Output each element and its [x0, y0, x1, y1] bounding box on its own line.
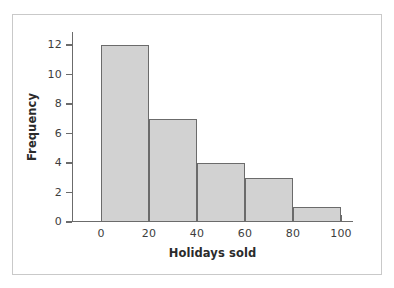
- x-axis-tick: [293, 215, 294, 222]
- x-axis-tick: [149, 215, 150, 222]
- x-axis-tick: [341, 215, 342, 222]
- histogram-bar: [101, 45, 149, 222]
- x-axis-tick: [245, 215, 246, 222]
- histogram-bar: [197, 163, 245, 222]
- x-axis-tick-label: 100: [321, 227, 361, 240]
- x-axis-tick-label: 20: [129, 227, 169, 240]
- y-axis-title: Frequency: [25, 67, 39, 187]
- x-axis-tick-label: 80: [273, 227, 313, 240]
- histogram-bar: [245, 178, 293, 222]
- histogram-plot-area: 0 2 4 6 8 10 12 0 20 40 60 80 100: [0, 0, 394, 288]
- x-axis-title: Holidays sold: [72, 246, 353, 260]
- y-axis-line: [72, 32, 73, 222]
- page-root: 0 2 4 6 8 10 12 0 20 40 60 80 100: [0, 0, 394, 288]
- y-axis-tick: [66, 133, 72, 134]
- x-axis-line: [72, 221, 353, 222]
- x-axis-tick: [101, 215, 102, 222]
- histogram-bar: [149, 119, 197, 222]
- y-axis-tick: [66, 221, 72, 222]
- x-axis-tick-label: 0: [81, 227, 121, 240]
- y-axis-tick-label: 0: [28, 215, 62, 228]
- y-axis-tick-label: 2: [28, 186, 62, 199]
- y-axis-tick: [66, 162, 72, 163]
- y-axis-tick: [66, 44, 72, 45]
- x-axis-tick: [197, 215, 198, 222]
- x-axis-tick-label: 60: [225, 227, 265, 240]
- y-axis-tick-label: 12: [28, 38, 62, 51]
- x-axis-tick-label: 40: [177, 227, 217, 240]
- y-axis-tick: [66, 74, 72, 75]
- y-axis-tick: [66, 192, 72, 193]
- histogram-bar: [293, 207, 341, 222]
- y-axis-tick: [66, 103, 72, 104]
